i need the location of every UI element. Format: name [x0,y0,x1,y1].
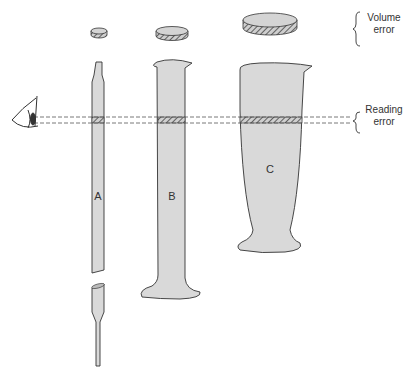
volume-error-brace [353,12,360,46]
disc-a [91,28,107,38]
volume-error-line2: error [362,24,406,36]
label-c: C [260,163,280,175]
sight-lines [34,117,352,123]
label-a: A [92,190,104,202]
volume-error-line1: Volume [362,12,406,24]
label-b: B [162,190,182,202]
disc-b [156,27,188,41]
reading-error-line2: error [362,116,406,128]
eye-icon [12,96,38,128]
reading-error-line1: Reading [362,104,406,116]
cylinder-b [141,60,200,299]
vessel-c [238,63,312,253]
pipette-a [91,62,105,366]
disc-c [243,13,297,35]
volume-error-label: Volume error [362,12,406,36]
reading-error-label: Reading error [362,104,406,128]
measurement-error-diagram [0,0,409,376]
reading-error-brace [353,112,360,133]
